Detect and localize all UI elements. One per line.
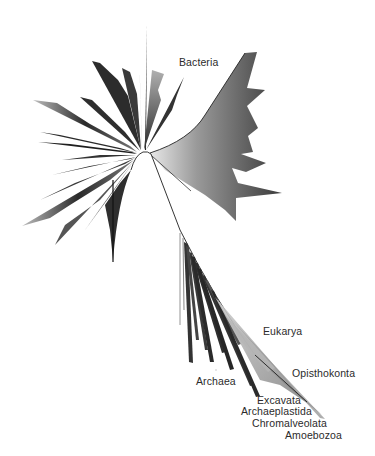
label-bacteria: Bacteria [179,56,218,68]
bacteria-clade-right [150,52,282,221]
bacteria-clade-left [22,100,137,245]
label-archaea: Archaea [196,375,236,387]
label-amoebozoa: Amoebozoa [285,429,342,441]
label-chromalveolata: Chromalveolata [252,417,327,429]
label-opisthokonta: Opisthokonta [292,367,355,379]
label-archaeplastida: Archaeplastida [241,405,312,417]
archaea-clade [180,233,260,397]
bacteria-clade-upper [80,25,184,151]
label-eukarya: Eukarya [263,325,302,337]
phylogenetic-tree [0,0,375,456]
